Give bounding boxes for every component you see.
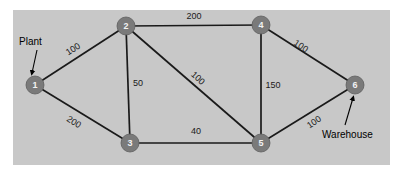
edge-label-4-6: 100 [292,38,310,55]
node-label-2: 2 [123,21,128,31]
edge-label-group: 100 200 200 50 100 40 150 100 100 [64,11,323,136]
edge-label-1-2: 100 [64,41,82,58]
edge-1-2 [35,26,126,85]
plant-annotation-arrow-icon [32,50,37,73]
edge-label-2-3: 50 [133,78,143,88]
warehouse-annotation-label: Warehouse [322,129,373,140]
node-label-3: 3 [127,138,132,148]
edge-1-3 [35,85,130,143]
node-label-1: 1 [32,80,37,90]
plant-annotation-label: Plant [19,36,42,47]
node-label-6: 6 [352,80,357,90]
network-graph: 100 200 200 50 100 40 150 100 100 1 2 3 … [0,0,401,177]
edge-label-2-4: 200 [186,11,201,21]
edge-4-6 [261,25,355,85]
edge-label-1-3: 200 [65,114,83,130]
edge-label-4-5: 150 [265,80,280,90]
edge-label-5-6: 100 [305,114,323,131]
edge-label-3-5: 40 [191,126,201,136]
node-label-4: 4 [258,20,263,30]
edge-2-3 [126,26,130,143]
edge-2-4 [126,25,261,26]
warehouse-annotation-arrow-icon [345,98,353,125]
node-label-5: 5 [258,138,263,148]
edge-label-2-5: 100 [189,69,207,86]
network-diagram-screenshot: 100 200 200 50 100 40 150 100 100 1 2 3 … [0,0,401,177]
